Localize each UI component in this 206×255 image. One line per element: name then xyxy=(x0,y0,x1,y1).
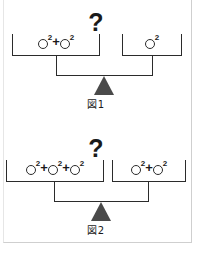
circle-icon xyxy=(26,165,36,175)
exponent-label: 2 xyxy=(70,33,74,42)
fulcrum-triangle-2 xyxy=(91,202,111,221)
circle-icon xyxy=(60,39,70,49)
right-hanger-2 xyxy=(148,182,149,202)
squared-circle-term: 2 xyxy=(145,36,159,50)
fulcrum-triangle-1 xyxy=(94,76,114,95)
left-pan-2: 2+2+2 xyxy=(6,160,104,182)
circle-icon xyxy=(48,165,58,175)
squared-circle-term: 2 xyxy=(60,36,74,50)
circle-icon xyxy=(131,165,141,175)
squared-circle-term: 2 xyxy=(153,162,167,176)
plus-operator: + xyxy=(40,161,48,175)
squared-circle-term: 2 xyxy=(38,36,52,50)
exponent-label: 2 xyxy=(163,159,167,168)
circle-icon xyxy=(38,39,48,49)
right-pan-1: 2 xyxy=(122,34,182,56)
left-pan-contents-1: 2+2 xyxy=(13,35,99,50)
right-pan-2: 2+2 xyxy=(112,160,186,182)
plus-operator: + xyxy=(145,161,153,175)
balance-scale-2: ? 2+2+2 2+2 図2 xyxy=(0,130,192,222)
squared-circle-term: 2 xyxy=(48,162,62,176)
question-mark-2: ? xyxy=(0,136,192,161)
left-pan-contents-2: 2+2+2 xyxy=(7,161,103,176)
question-mark-1: ? xyxy=(0,10,192,35)
circle-icon xyxy=(153,165,163,175)
figure-1: ? 2+2 2 図1 xyxy=(0,4,192,96)
circle-icon xyxy=(145,39,155,49)
left-hanger-2 xyxy=(54,182,55,202)
exponent-label: 2 xyxy=(80,159,84,168)
right-pan-contents-2: 2+2 xyxy=(113,161,185,176)
squared-circle-term: 2 xyxy=(131,162,145,176)
circle-icon xyxy=(70,165,80,175)
exponent-label: 2 xyxy=(155,33,159,42)
left-hanger-1 xyxy=(56,56,57,76)
plus-operator: + xyxy=(62,161,70,175)
right-hanger-1 xyxy=(152,56,153,76)
plus-operator: + xyxy=(52,35,60,49)
left-pan-1: 2+2 xyxy=(12,34,100,56)
figure-caption-1: 図1 xyxy=(0,96,192,111)
figure-2: ? 2+2+2 2+2 図2 xyxy=(0,130,192,222)
squared-circle-term: 2 xyxy=(26,162,40,176)
figure-caption-2: 図2 xyxy=(0,222,192,237)
right-pan-contents-1: 2 xyxy=(123,35,181,50)
balance-scale-1: ? 2+2 2 図1 xyxy=(0,4,192,96)
squared-circle-term: 2 xyxy=(70,162,84,176)
diagram-page: ? 2+2 2 図1 ? 2+2+2 2+2 xyxy=(0,0,206,255)
